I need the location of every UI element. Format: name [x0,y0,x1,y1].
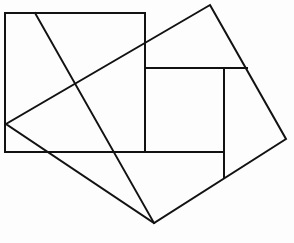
line-drawing-svg [0,0,294,243]
shape-layer [5,5,286,223]
crossing-diagonal-line [35,13,154,223]
figure-canvas [0,0,294,243]
